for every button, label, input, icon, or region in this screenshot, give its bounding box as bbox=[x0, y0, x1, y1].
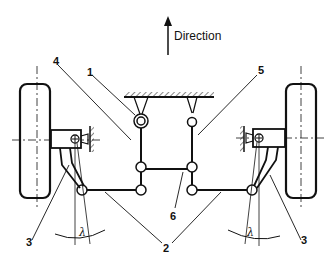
direction-label: Direction bbox=[174, 29, 221, 43]
callout-3-left: 3 bbox=[26, 236, 32, 248]
steering-linkage-diagram: Direction bbox=[0, 0, 336, 263]
right-lambda-label: λ bbox=[246, 226, 254, 239]
callout-3-right: 3 bbox=[301, 234, 307, 246]
callout-5: 5 bbox=[258, 64, 264, 76]
callout-6: 6 bbox=[170, 210, 176, 222]
callout-4: 4 bbox=[53, 55, 60, 67]
direction-arrow bbox=[164, 16, 172, 55]
left-lambda-label: λ bbox=[78, 226, 86, 239]
right-steering-arm bbox=[254, 147, 278, 188]
leader-lines bbox=[32, 65, 301, 243]
idler-pivot bbox=[187, 97, 197, 127]
callout-1: 1 bbox=[87, 66, 93, 78]
joints bbox=[136, 162, 197, 195]
frame-ground bbox=[124, 92, 214, 97]
left-steering-knuckle bbox=[51, 126, 94, 152]
steering-box-pivot bbox=[134, 97, 148, 128]
callout-2: 2 bbox=[163, 242, 169, 254]
